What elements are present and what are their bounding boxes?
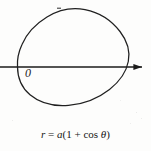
plot-area bbox=[0, 0, 151, 126]
cardioid-curve bbox=[17, 9, 128, 106]
origin-label: 0 bbox=[25, 66, 31, 80]
caption-expression-open: (1 + cos bbox=[63, 128, 101, 140]
cardioid-plot-svg bbox=[0, 0, 151, 126]
caption-expression-close: ) bbox=[106, 128, 110, 140]
cardioid-figure: 0 r = a(1 + cos θ) bbox=[0, 0, 151, 151]
caption-equals: = bbox=[45, 128, 57, 140]
figure-caption: r = a(1 + cos θ) bbox=[0, 127, 151, 142]
